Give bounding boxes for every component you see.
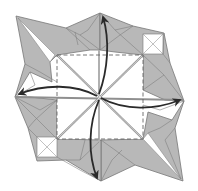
origami-diagram: origami-step: [0, 0, 198, 191]
origami-diagram-svg: [0, 0, 198, 191]
